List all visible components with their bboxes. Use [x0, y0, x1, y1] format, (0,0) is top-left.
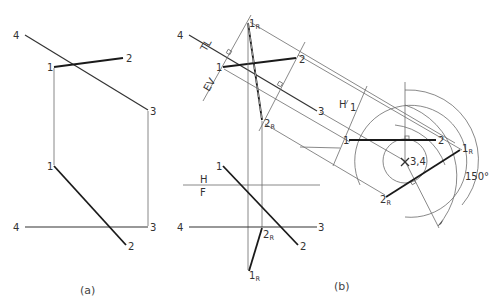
- fold-label-H-aux: H: [339, 99, 347, 110]
- label-EV: EV: [201, 76, 217, 93]
- label-2R-front: 2R: [263, 229, 274, 242]
- panel-a: 4 1 2 3 1 2 3 4 (a): [13, 30, 156, 297]
- label-2-front: 2: [128, 241, 134, 252]
- label-1R-aux: 1R: [462, 143, 473, 156]
- label-TL: TL: [198, 37, 214, 54]
- label-1-front: 1: [47, 161, 53, 172]
- label-1-aux: 1: [343, 135, 349, 146]
- label-4-front-b: 4: [177, 222, 183, 233]
- label-3-4-aux: 3,4: [410, 156, 426, 167]
- label-1R-top: 1R: [249, 18, 260, 31]
- label-3-front-b: 3: [318, 222, 324, 233]
- fold-line-H-1: [333, 86, 367, 166]
- label-angle-150: 150°: [465, 171, 489, 182]
- label-3-front: 3: [150, 222, 156, 233]
- label-2-front-b: 2: [300, 241, 306, 252]
- line-1-2-top-b: [223, 58, 296, 67]
- fold-label-F: F: [200, 187, 206, 198]
- label-4-top: 4: [13, 30, 19, 41]
- fold-label-1-aux: 1: [350, 102, 356, 113]
- label-2-aux: 2: [438, 135, 444, 146]
- label-2-top: 2: [126, 53, 132, 64]
- label-3-top: 3: [150, 106, 156, 117]
- caption-b: (b): [334, 280, 350, 293]
- line-1-2-front: [54, 166, 126, 245]
- caption-a: (a): [80, 284, 95, 297]
- descriptive-geometry-figure: 4 1 2 3 1 2 3 4 (a) H: [0, 0, 496, 304]
- line-4-3-top: [25, 35, 148, 110]
- aux-diagonal-axis: [405, 161, 439, 228]
- right-angle-mark-1: [226, 49, 231, 54]
- label-4-front: 4: [13, 222, 19, 233]
- projector-3-aux: [320, 112, 405, 161]
- label-4-top-b: 4: [177, 30, 183, 41]
- label-2-top-b: 2: [299, 54, 305, 65]
- line-2R-1R-front: [249, 228, 262, 271]
- label-2R-aux: 2R: [380, 194, 391, 207]
- fold-label-H: H: [200, 174, 208, 185]
- label-2R-top: 2R: [264, 118, 275, 131]
- label-1-top-b: 1: [216, 62, 222, 73]
- label-1-top: 1: [47, 62, 53, 73]
- projector-2R-aux: [265, 124, 385, 195]
- label-3-top-b: 3: [318, 106, 324, 117]
- label-1-front-b: 1: [216, 161, 222, 172]
- label-1R-front: 1R: [249, 270, 260, 283]
- panel-b: H F H 1 4 1 2 3: [177, 15, 489, 293]
- projector-1-aux: [224, 69, 350, 142]
